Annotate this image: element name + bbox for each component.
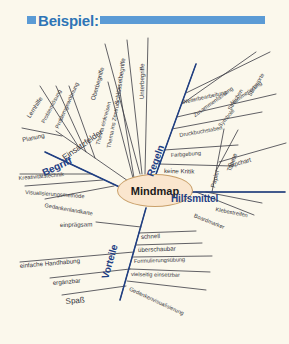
label-keine-kritik[interactable]: keine Kritik xyxy=(164,168,194,175)
label-ueberschaubar[interactable]: überschaubar xyxy=(138,246,176,254)
label-vielseitig-einsetzbar[interactable]: vielseitig einsetzbar xyxy=(131,272,180,278)
twig-spass xyxy=(62,286,126,295)
twig-visualisierungsmethode xyxy=(25,180,103,186)
mindmap-page: Beispiel: xyxy=(0,0,289,344)
twig-farbgebung xyxy=(164,145,238,150)
twig-unterbegriffe xyxy=(145,38,148,174)
label-unterbegriffe[interactable]: Unterbegriffe xyxy=(139,63,146,99)
twig-ergaenzbar xyxy=(50,269,130,278)
twig-einpraegsam xyxy=(96,222,141,227)
label-schnell[interactable]: schnell xyxy=(141,233,161,240)
label-einpraegsam[interactable]: einprägsam xyxy=(60,221,92,228)
label-hilfsmittel[interactable]: Hilfsmittel xyxy=(171,194,218,204)
label-spass[interactable]: Spaß xyxy=(65,296,85,306)
twig-keine-kritik xyxy=(159,164,232,166)
